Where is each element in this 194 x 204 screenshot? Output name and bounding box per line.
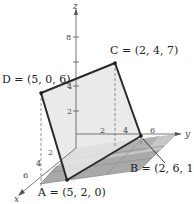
vertex-b <box>139 134 143 138</box>
label-point-c: C = (2, 4, 7) <box>110 44 178 57</box>
z-tick-2: 2 <box>67 107 72 116</box>
label-point-a: A = (5, 2, 0) <box>37 186 106 199</box>
x-tick-2: 2 <box>48 148 53 157</box>
y-axis-label: y <box>184 129 191 139</box>
x-tick-6: 6 <box>23 171 28 180</box>
x-axis-label: x <box>14 194 19 204</box>
x-tick-4: 4 <box>36 159 41 168</box>
vertex-d <box>39 91 43 95</box>
3d-quadrilateral-diagram: z 8 4 2 y 2 4 6 x 2 4 6 D = (5, 0, 6) <box>0 0 194 204</box>
z-tick-8: 8 <box>66 33 71 42</box>
y-tick-2: 2 <box>100 126 105 135</box>
vertex-a <box>65 178 69 182</box>
vertex-c <box>113 61 117 65</box>
label-point-b: B = (2, 6, 1) <box>130 162 194 175</box>
z-axis-label: z <box>72 1 78 11</box>
y-tick-6: 6 <box>150 126 155 135</box>
y-tick-4: 4 <box>123 126 128 135</box>
label-point-d: D = (5, 0, 6) <box>2 73 71 86</box>
